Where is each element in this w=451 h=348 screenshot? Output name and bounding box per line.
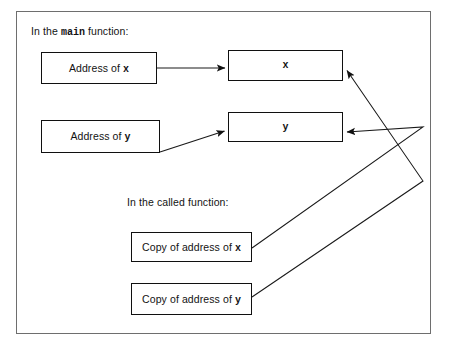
node-address-of-y: Address of y [41,120,160,153]
node-variable-y: y [228,112,343,142]
pointer-diagram-figure: In the main function: In the called func… [0,0,451,348]
caption-main-function: In the main function: [31,25,129,39]
node-address-of-x-prefix: Address of [69,62,123,74]
caption-called-function: In the called function: [127,196,229,208]
node-address-of-x: Address of x [41,52,157,84]
node-variable-x: x [228,50,343,81]
node-address-of-y-code: y [125,132,131,143]
node-copy-of-address-of-y-code: y [235,295,241,306]
caption-main-prefix: In the [31,25,61,37]
node-copy-of-address-of-x: Copy of address of x [131,232,252,262]
node-copy-of-address-of-x-code: x [235,243,241,254]
node-copy-of-address-of-x-prefix: Copy of address of [142,241,235,253]
node-address-of-x-code: x [123,64,129,75]
node-copy-of-address-of-y-prefix: Copy of address of [142,293,235,305]
node-address-of-y-prefix: Address of [70,130,124,142]
caption-main-suffix: function: [85,25,129,37]
node-copy-of-address-of-y: Copy of address of y [131,283,252,315]
caption-main-code: main [61,27,85,38]
